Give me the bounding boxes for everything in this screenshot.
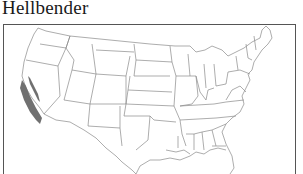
- us-map: [0, 0, 303, 174]
- range-areas: [20, 76, 42, 124]
- range-coastal-california: [20, 80, 42, 124]
- state-borders: [22, 26, 272, 174]
